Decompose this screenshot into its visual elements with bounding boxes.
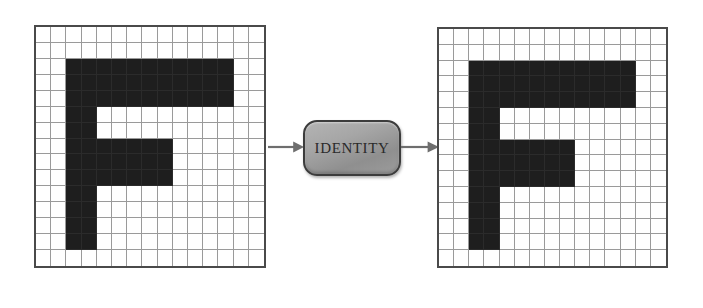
grid-cell bbox=[651, 61, 666, 77]
grid-cell bbox=[158, 75, 173, 91]
grid-cell bbox=[66, 154, 81, 170]
grid-cell bbox=[173, 27, 188, 43]
grid-cell bbox=[545, 187, 560, 203]
grid-cell bbox=[218, 154, 233, 170]
grid-cell bbox=[142, 27, 157, 43]
grid-cell bbox=[636, 171, 651, 187]
grid-cell bbox=[158, 250, 173, 266]
grid-cell bbox=[605, 219, 620, 235]
grid-cell bbox=[249, 170, 264, 186]
grid-cell bbox=[545, 124, 560, 140]
grid-cell bbox=[530, 155, 545, 171]
grid-cell bbox=[36, 154, 51, 170]
grid-cell bbox=[234, 107, 249, 123]
grid-cell bbox=[234, 154, 249, 170]
grid-cell bbox=[36, 43, 51, 59]
grid-cell bbox=[142, 123, 157, 139]
grid-cell bbox=[112, 139, 127, 155]
grid-cell bbox=[545, 45, 560, 61]
grid-cell bbox=[469, 124, 484, 140]
grid-cell bbox=[36, 107, 51, 123]
grid-cell bbox=[500, 140, 515, 156]
identity-operator-box[interactable]: IDENTITY bbox=[303, 120, 401, 176]
grid-cell bbox=[651, 45, 666, 61]
grid-cell bbox=[173, 202, 188, 218]
grid-cell bbox=[112, 27, 127, 43]
grid-cell bbox=[575, 250, 590, 266]
grid-cell bbox=[439, 234, 454, 250]
grid-cell bbox=[82, 27, 97, 43]
grid-cell bbox=[454, 203, 469, 219]
grid-cell bbox=[590, 92, 605, 108]
grid-cell bbox=[188, 154, 203, 170]
grid-cell bbox=[188, 170, 203, 186]
grid-cell bbox=[469, 29, 484, 45]
grid-cell bbox=[188, 107, 203, 123]
grid-cell bbox=[500, 124, 515, 140]
grid-cell bbox=[545, 140, 560, 156]
grid-cell bbox=[112, 43, 127, 59]
grid-cell bbox=[249, 202, 264, 218]
grid-cell bbox=[173, 250, 188, 266]
grid-cell bbox=[249, 59, 264, 75]
grid-cell bbox=[575, 108, 590, 124]
grid-cell bbox=[142, 139, 157, 155]
grid-cell bbox=[82, 218, 97, 234]
grid-cell bbox=[590, 140, 605, 156]
grid-cell bbox=[188, 139, 203, 155]
grid-cell bbox=[454, 92, 469, 108]
grid-cell bbox=[575, 171, 590, 187]
grid-cell bbox=[515, 76, 530, 92]
grid-cell bbox=[530, 45, 545, 61]
grid-cell bbox=[97, 91, 112, 107]
grid-cell bbox=[454, 155, 469, 171]
grid-cell bbox=[560, 61, 575, 77]
grid-cell bbox=[218, 123, 233, 139]
grid-cell bbox=[439, 92, 454, 108]
grid-cell bbox=[636, 108, 651, 124]
grid-cell bbox=[575, 203, 590, 219]
grid-cell bbox=[112, 170, 127, 186]
grid-cell bbox=[439, 140, 454, 156]
grid-cell bbox=[605, 187, 620, 203]
grid-cell bbox=[530, 187, 545, 203]
grid-cell bbox=[454, 187, 469, 203]
grid-cell bbox=[51, 27, 66, 43]
grid-cell bbox=[560, 124, 575, 140]
grid-cell bbox=[621, 29, 636, 45]
grid-cell bbox=[127, 27, 142, 43]
grid-cell bbox=[605, 29, 620, 45]
grid-cell bbox=[158, 202, 173, 218]
grid-cell bbox=[500, 250, 515, 266]
grid-cell bbox=[249, 107, 264, 123]
grid-cell bbox=[500, 76, 515, 92]
grid-cell bbox=[188, 123, 203, 139]
grid-cell bbox=[530, 140, 545, 156]
grid-cell bbox=[590, 124, 605, 140]
grid-cell bbox=[82, 43, 97, 59]
grid-cell bbox=[530, 61, 545, 77]
grid-cell bbox=[651, 29, 666, 45]
grid-cell bbox=[560, 171, 575, 187]
grid-cell bbox=[127, 43, 142, 59]
grid-cell bbox=[234, 218, 249, 234]
grid-cell bbox=[82, 59, 97, 75]
grid-cell bbox=[545, 234, 560, 250]
grid-cell bbox=[454, 61, 469, 77]
grid-cell bbox=[142, 154, 157, 170]
grid-cell bbox=[651, 108, 666, 124]
grid-cell bbox=[127, 107, 142, 123]
grid-cell bbox=[82, 91, 97, 107]
grid-cell bbox=[158, 91, 173, 107]
grid-cell bbox=[590, 76, 605, 92]
grid-cell bbox=[439, 108, 454, 124]
grid-cell bbox=[454, 234, 469, 250]
grid-cell bbox=[218, 250, 233, 266]
grid-cell bbox=[469, 45, 484, 61]
grid-cell bbox=[173, 91, 188, 107]
grid-cell bbox=[575, 155, 590, 171]
grid-cell bbox=[484, 108, 499, 124]
grid-cell bbox=[575, 45, 590, 61]
grid-cell bbox=[651, 124, 666, 140]
grid-cell bbox=[36, 234, 51, 250]
